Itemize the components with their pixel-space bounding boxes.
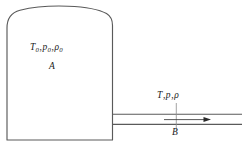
- station-b-label: B: [172, 128, 178, 138]
- tank-pressure-subscript: 0: [47, 46, 51, 53]
- figure-container: T0,p0,ρ0 A T,p,ρ B: [0, 0, 243, 155]
- pipe-temperature-symbol: T: [157, 90, 162, 100]
- station-a-label: A: [49, 62, 55, 72]
- flow-arrow-icon: [164, 117, 211, 122]
- diagram-canvas: [0, 0, 243, 155]
- tank-outline: [7, 6, 113, 140]
- tank-density-subscript: 0: [59, 46, 63, 53]
- tank-temperature-subscript: 0: [35, 46, 39, 53]
- pipe-density-symbol: ρ: [174, 90, 179, 100]
- tank-state-label: T0,p0,ρ0: [30, 43, 63, 53]
- pipe-state-label: T,p,ρ: [157, 91, 179, 101]
